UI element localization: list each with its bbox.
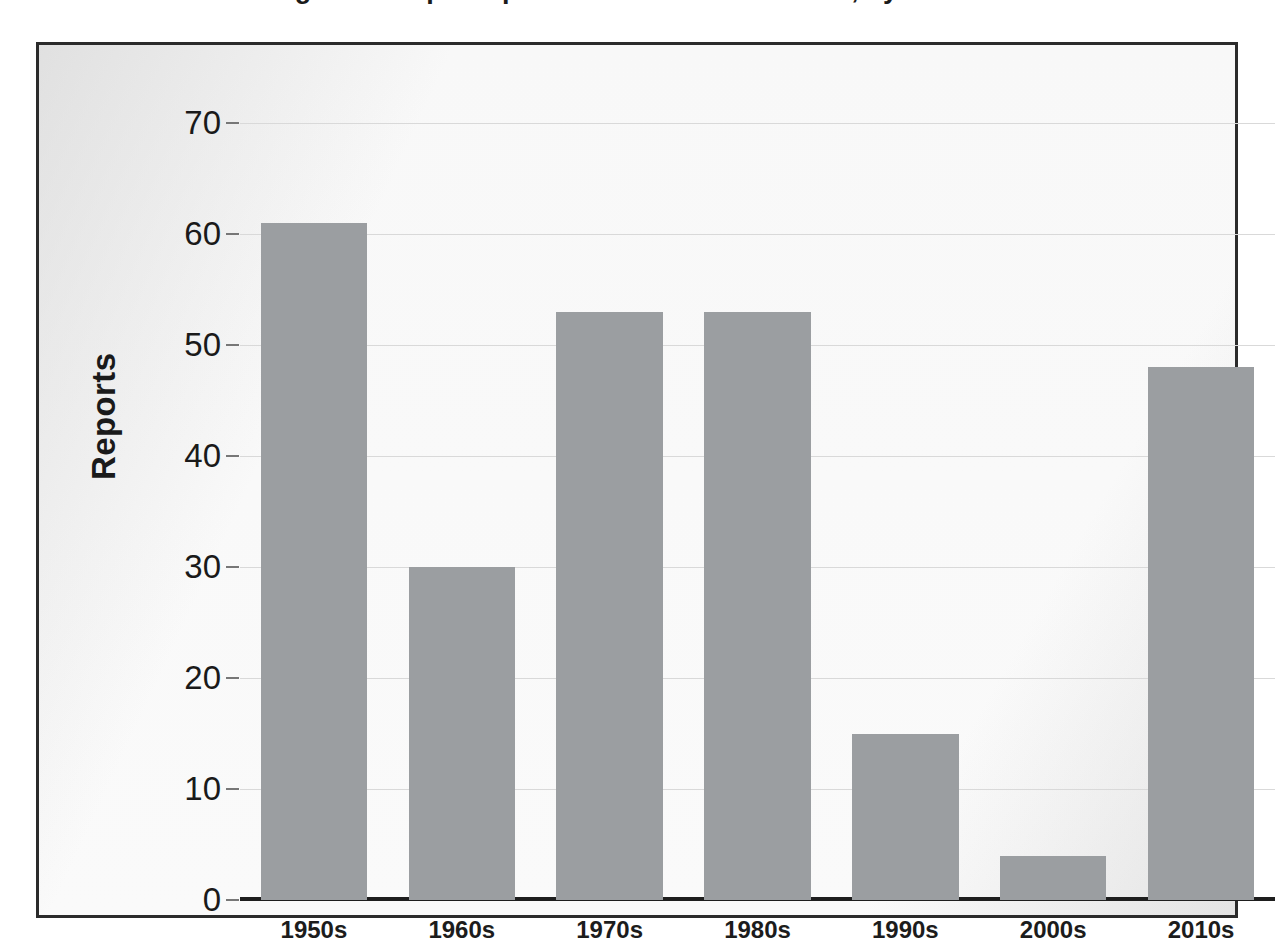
y-tick-mark xyxy=(226,566,239,568)
y-axis-tick-label: 20 xyxy=(101,659,221,697)
y-tick-mark xyxy=(226,677,239,679)
plot-area: 0102030405060701950s1960s1970s1980s1990s… xyxy=(240,123,1275,900)
y-tick-mark xyxy=(226,344,239,346)
y-axis-tick-label: 50 xyxy=(101,326,221,364)
bar-1990s xyxy=(852,734,958,901)
y-axis-tick-label: 0 xyxy=(101,881,221,919)
gridline xyxy=(240,234,1275,235)
bar-1980s xyxy=(704,312,810,900)
y-tick-mark xyxy=(226,122,239,124)
y-tick-mark xyxy=(226,899,239,901)
x-axis-tick-label: 1980s xyxy=(724,916,791,942)
x-axis-tick-label: 1990s xyxy=(872,916,939,942)
x-axis-tick-label: 1950s xyxy=(281,916,348,942)
bar-1970s xyxy=(556,312,662,900)
x-axis-tick-label: 2010s xyxy=(1168,916,1235,942)
y-axis-tick-label: 30 xyxy=(101,548,221,586)
gridline xyxy=(240,123,1275,124)
y-axis-tick-label: 60 xyxy=(101,215,221,253)
x-axis-tick-label: 2000s xyxy=(1020,916,1087,942)
bar-2000s xyxy=(1000,856,1106,900)
chart-title: Figure 1. Reports per decade in the data… xyxy=(0,0,1270,5)
x-axis-tick-label: 1960s xyxy=(428,916,495,942)
bar-1950s xyxy=(261,223,367,900)
y-tick-mark xyxy=(226,233,239,235)
y-tick-mark xyxy=(226,788,239,790)
y-axis-tick-label: 70 xyxy=(101,104,221,142)
bar-2010s xyxy=(1148,367,1254,900)
y-tick-mark xyxy=(226,455,239,457)
x-axis-tick-label: 1970s xyxy=(576,916,643,942)
chart-frame: Reports 0102030405060701950s1960s1970s19… xyxy=(36,42,1238,918)
y-axis-tick-label: 40 xyxy=(101,437,221,475)
bar-1960s xyxy=(409,567,515,900)
y-axis-tick-label: 10 xyxy=(101,770,221,808)
